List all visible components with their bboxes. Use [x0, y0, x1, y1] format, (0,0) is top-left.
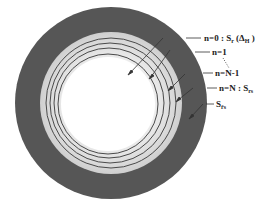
label-nN1: n=N-1 — [215, 68, 239, 78]
ring-diagram — [0, 0, 273, 209]
label-n0: n=0 : Sr (ΔH ) — [204, 33, 255, 46]
white-core — [61, 57, 155, 151]
label-Srs: Sr̄s — [216, 99, 226, 112]
label-nN: n=N : Srs — [219, 83, 253, 96]
label-n1: n=1 — [212, 47, 227, 57]
dotted-ellipsis — [223, 58, 229, 68]
